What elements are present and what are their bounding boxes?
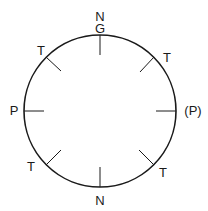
label-upper-right-t: T <box>163 50 171 65</box>
label-top-g: G <box>95 21 105 36</box>
label-upper-left-t: T <box>37 43 45 58</box>
label-bottom-n: N <box>95 193 104 208</box>
label-right-p: (P) <box>184 103 201 118</box>
tick-lower-right <box>139 150 154 165</box>
tick-lower-left <box>46 150 61 165</box>
label-left-p: P <box>10 103 19 118</box>
label-lower-right-t: T <box>159 165 167 180</box>
orientation-circle-diagram: N G T T P (P) T T N <box>0 0 208 211</box>
tick-upper-left <box>46 57 61 71</box>
tick-upper-right <box>140 57 154 72</box>
label-lower-left-t: T <box>27 159 35 174</box>
